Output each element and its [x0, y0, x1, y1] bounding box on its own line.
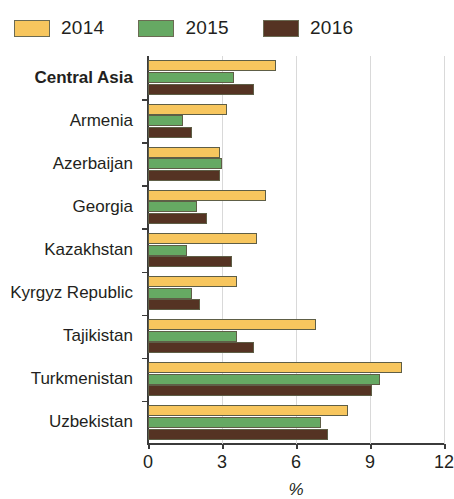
y-axis-tick [142, 185, 148, 187]
bar-2014-azerbaijan [148, 147, 220, 158]
bar-2015-kyrgyz-republic [148, 288, 192, 299]
category-label: Central Asia [34, 68, 133, 88]
bar-2016-uzbekistan [148, 429, 328, 440]
x-axis-tick [296, 444, 298, 449]
y-axis-tick [142, 315, 148, 317]
x-axis-tick-label: 0 [143, 452, 153, 473]
x-axis-tick [148, 444, 150, 449]
chart-plot-area: Central AsiaArmeniaAzerbaijanGeorgiaKaza… [0, 56, 453, 499]
bar-2014-georgia [148, 190, 266, 201]
bar-2014-turkmenistan [148, 362, 402, 373]
bar-2015-central-asia [148, 72, 234, 83]
category-label: Azerbaijan [53, 154, 133, 174]
x-axis-tick-label: 3 [217, 452, 227, 473]
category-label: Armenia [70, 111, 133, 131]
category-label: Kazakhstan [44, 240, 133, 260]
legend-item: 2015 [138, 17, 228, 39]
legend-swatch-2014 [14, 20, 50, 37]
bar-2015-azerbaijan [148, 158, 222, 169]
x-axis-title: % [288, 480, 303, 499]
x-axis-tick [222, 444, 224, 449]
y-axis-tick [142, 401, 148, 403]
x-axis-tick [370, 444, 372, 449]
bar-2016-kyrgyz-republic [148, 299, 200, 310]
legend-item: 2014 [14, 17, 104, 39]
x-axis-tick-label: 9 [365, 452, 375, 473]
bar-2016-central-asia [148, 84, 254, 95]
x-axis-tick-label: 6 [291, 452, 301, 473]
x-axis-tick [444, 444, 446, 449]
category-label: Uzbekistan [49, 412, 133, 432]
y-axis-tick [142, 358, 148, 360]
legend-item: 2016 [263, 17, 353, 39]
legend-item-label: 2015 [185, 17, 228, 39]
bar-2015-kazakhstan [148, 245, 187, 256]
bar-2015-georgia [148, 201, 197, 212]
category-axis-labels: Central AsiaArmeniaAzerbaijanGeorgiaKaza… [0, 56, 141, 444]
chart-legend: 201420152016 [0, 0, 453, 56]
bar-2016-azerbaijan [148, 170, 220, 181]
bar-2014-tajikistan [148, 319, 316, 330]
bar-2014-uzbekistan [148, 405, 348, 416]
bar-2014-kazakhstan [148, 233, 257, 244]
bar-2015-uzbekistan [148, 417, 321, 428]
y-axis-tick [142, 99, 148, 101]
y-axis-tick [142, 142, 148, 144]
x-axis-tick-label: 12 [434, 452, 454, 473]
category-label: Tajikistan [63, 326, 133, 346]
legend-item-label: 2016 [310, 17, 353, 39]
bar-2016-kazakhstan [148, 256, 232, 267]
category-label: Georgia [73, 197, 133, 217]
bar-2016-georgia [148, 213, 207, 224]
legend-swatch-2016 [263, 20, 299, 37]
bar-2016-tajikistan [148, 342, 254, 353]
bar-2014-kyrgyz-republic [148, 276, 237, 287]
bar-2016-turkmenistan [148, 385, 372, 396]
legend-swatch-2015 [138, 20, 174, 37]
bar-2014-central-asia [148, 60, 276, 71]
gridline [444, 56, 445, 444]
bar-2016-armenia [148, 127, 192, 138]
y-axis-tick [142, 272, 148, 274]
y-axis-tick [142, 228, 148, 230]
legend-item-label: 2014 [61, 17, 104, 39]
category-label: Kyrgyz Republic [10, 283, 133, 303]
bar-2015-armenia [148, 115, 183, 126]
bar-2015-tajikistan [148, 331, 237, 342]
bars-container [148, 56, 444, 444]
bar-2014-armenia [148, 104, 227, 115]
bar-2015-turkmenistan [148, 374, 380, 385]
category-label: Turkmenistan [31, 369, 133, 389]
